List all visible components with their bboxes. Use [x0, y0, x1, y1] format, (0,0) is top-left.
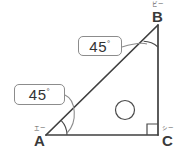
- blank-circle: [116, 101, 135, 120]
- angle-a-callout-box: 45°: [14, 84, 65, 105]
- vertex-a-furigana: エー: [34, 126, 45, 132]
- vertex-b-furigana: ビー: [152, 2, 163, 8]
- vertex-a-label: A: [34, 133, 45, 148]
- angle-b-degree-symbol: °: [107, 39, 111, 48]
- angle-b-value: 45: [89, 38, 107, 55]
- angle-arc-a: [61, 121, 67, 135]
- right-angle-marker-c: [147, 124, 158, 135]
- vertex-c-furigana: シー: [162, 126, 173, 132]
- vertex-b-label: B: [152, 9, 163, 24]
- geometry-diagram: ビー B エー A シー C 45° 45°: [0, 0, 184, 156]
- angle-b-callout-text: 45°: [89, 39, 110, 54]
- angle-a-value: 45: [29, 86, 47, 103]
- angle-a-degree-symbol: °: [46, 87, 50, 96]
- angle-b-callout-box: 45°: [78, 36, 122, 56]
- vertex-c-label: C: [162, 133, 173, 148]
- callout-leader-b: [122, 43, 147, 47]
- angle-a-callout-text: 45°: [29, 87, 50, 102]
